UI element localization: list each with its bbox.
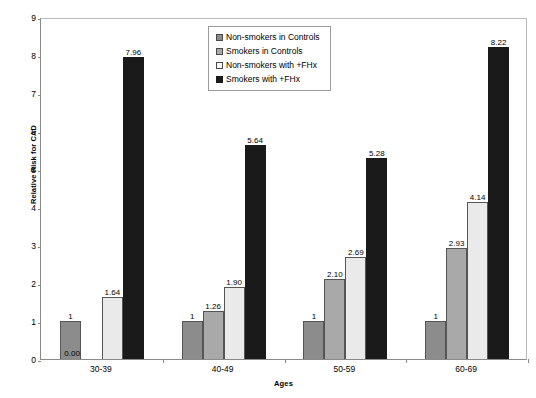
bar[interactable]: 2.10 [324, 279, 345, 359]
y-axis-tick-mark [38, 361, 41, 362]
bar-slot: 1 [182, 19, 203, 359]
x-axis-tick-mark [528, 359, 529, 363]
bar-value-label: 1 [190, 312, 194, 321]
y-axis-tick-label: 2 [22, 280, 36, 289]
bar-value-label: 2.93 [449, 239, 465, 248]
y-axis-tick-mark [38, 133, 41, 134]
bar-value-label: 0.00 [64, 349, 80, 358]
x-axis-title: Ages [40, 379, 527, 388]
y-axis-tick-mark [38, 247, 41, 248]
legend-label: Non-smokers in Controls [226, 33, 320, 42]
bar-value-label: 2.69 [348, 248, 364, 257]
bar-slot: 1.64 [102, 19, 123, 359]
y-axis-tick-label: 0 [22, 356, 36, 365]
bar[interactable]: 1.90 [224, 287, 245, 359]
y-axis-tick-label: 7 [22, 90, 36, 99]
bar[interactable]: 7.96 [123, 57, 144, 359]
y-axis-tick-label: 9 [22, 14, 36, 23]
y-axis-tick-mark [38, 323, 41, 324]
bar-slot: 1 [60, 19, 81, 359]
bar-slot: 8.22 [488, 19, 509, 359]
bar-group: 10.001.647.96 [41, 19, 163, 359]
bar-slot: 5.28 [366, 19, 387, 359]
legend-item[interactable]: Smokers in Controls [216, 47, 320, 56]
y-axis-tick-mark [38, 19, 41, 20]
y-axis-tick-mark [38, 285, 41, 286]
bar[interactable]: 1 [303, 321, 324, 359]
bar-slot: 1 [425, 19, 446, 359]
y-axis-tick-label: 1 [22, 318, 36, 327]
legend-swatch-icon [216, 48, 223, 55]
legend-item[interactable]: Non-smokers with +FHx [216, 61, 320, 70]
bar[interactable]: 4.14 [467, 202, 488, 359]
x-axis-tick-mark [285, 359, 286, 363]
y-axis-tick-label: 8 [22, 52, 36, 61]
bar-value-label: 1.26 [205, 302, 221, 311]
bar-group-bars: 12.934.148.22 [406, 19, 528, 359]
bar-slot: 7.96 [123, 19, 144, 359]
bar-slot: 0.00 [81, 19, 102, 359]
y-axis-tick-mark [38, 209, 41, 210]
y-axis-tick-label: 6 [22, 128, 36, 137]
legend-label: Smokers in Controls [226, 47, 303, 56]
bar-value-label: 1 [312, 312, 316, 321]
legend-swatch-icon [216, 62, 223, 69]
bar-value-label: 1.64 [105, 288, 121, 297]
y-axis-tick-labels: 0123456789 [22, 18, 36, 360]
bar-value-label: 5.64 [247, 136, 263, 145]
x-axis-tick-label: 40-49 [212, 364, 234, 374]
legend-label: Non-smokers with +FHx [226, 61, 317, 70]
x-axis-tick-label: 30-39 [90, 364, 112, 374]
x-axis-tick-mark [163, 359, 164, 363]
bar-value-label: 1 [433, 312, 437, 321]
bar[interactable]: 5.28 [366, 158, 387, 359]
x-axis-tick-label: 60-69 [455, 364, 477, 374]
bar-slot: 2.93 [446, 19, 467, 359]
relative-risk-bar-chart: Relative Risk for CAD 0123456789 10.001.… [0, 0, 536, 398]
bar[interactable]: 1.64 [102, 297, 123, 359]
bar[interactable]: 5.64 [245, 145, 266, 359]
bar-slot: 2.69 [345, 19, 366, 359]
bar[interactable]: 2.93 [446, 248, 467, 359]
y-axis-tick-label: 4 [22, 204, 36, 213]
x-axis-tick-label: 50-59 [334, 364, 356, 374]
bar-value-label: 1.90 [226, 278, 242, 287]
bar-value-label: 4.14 [470, 193, 486, 202]
y-axis-tick-mark [38, 95, 41, 96]
bar[interactable]: 1.26 [203, 311, 224, 359]
legend-label: Smokers with +FHx [226, 75, 300, 84]
bar-slot: 4.14 [467, 19, 488, 359]
bar-group: 12.934.148.22 [406, 19, 528, 359]
bar[interactable]: 1 [182, 321, 203, 359]
y-axis-tick-mark [38, 171, 41, 172]
bar-group-bars: 10.001.647.96 [41, 19, 163, 359]
legend-swatch-icon [216, 34, 223, 41]
bar[interactable]: 1 [425, 321, 446, 359]
y-axis-tick-label: 5 [22, 166, 36, 175]
bar[interactable]: 8.22 [488, 47, 509, 359]
bar-value-label: 8.22 [491, 38, 507, 47]
y-axis-tick-label: 3 [22, 242, 36, 251]
bar-value-label: 5.28 [369, 149, 385, 158]
x-axis-tick-mark [406, 359, 407, 363]
x-axis-tick-labels: 30-3940-4950-5960-69 [40, 364, 527, 378]
y-axis-tick-mark [38, 57, 41, 58]
legend-swatch-icon [216, 76, 223, 83]
legend-item[interactable]: Smokers with +FHx [216, 75, 320, 84]
legend-item[interactable]: Non-smokers in Controls [216, 33, 320, 42]
bar-value-label: 7.96 [126, 48, 142, 57]
bar-value-label: 1 [68, 312, 72, 321]
bar[interactable]: 2.69 [345, 257, 366, 359]
bar-value-label: 2.10 [327, 270, 343, 279]
chart-legend: Non-smokers in ControlsSmokers in Contro… [208, 26, 331, 91]
